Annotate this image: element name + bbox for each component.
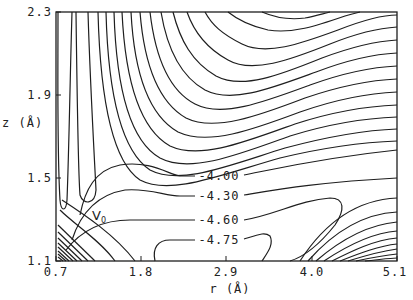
y-tick-label: 1.5	[27, 171, 52, 185]
y-axis-label: z (Å)	[2, 115, 43, 130]
contour-label: -4.00	[198, 169, 239, 183]
contour-label: -4.30	[198, 189, 239, 203]
v0-subscript: 0	[101, 216, 106, 225]
contour-label: -4.60	[198, 213, 239, 227]
x-tick-label: 4.0	[300, 265, 325, 279]
x-tick-label: 2.9	[214, 265, 239, 279]
y-tick-label: 1.1	[27, 254, 52, 268]
v0-annotation: V0	[92, 208, 106, 225]
x-axis-label: r (Å)	[209, 281, 250, 296]
x-tick-label: 5.1	[383, 265, 408, 279]
y-tick-labels: 1.1 1.5 1.9 2.3	[27, 5, 52, 268]
y-tick-label: 1.9	[27, 88, 52, 102]
x-tick-label: 1.8	[129, 265, 154, 279]
v0-main: V	[92, 208, 101, 223]
x-tick-labels: 0.7 1.8 2.9 4.0 5.1	[44, 265, 408, 279]
contour-label: -4.75	[198, 233, 239, 247]
y-tick-label: 2.3	[27, 5, 52, 19]
contour-plot: 0.7 1.8 2.9 4.0 5.1 1.1 1.5 1.9 2.3 r (Å…	[0, 0, 413, 300]
